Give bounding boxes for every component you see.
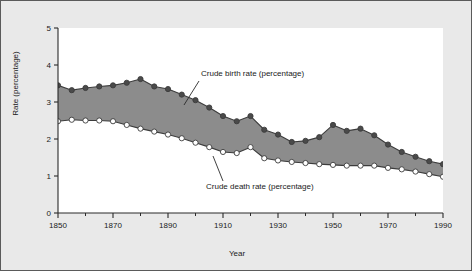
birth-rate-point — [124, 80, 129, 85]
death-rate-point — [317, 162, 322, 167]
birth-rate-point — [165, 86, 170, 91]
birth-rate-point — [427, 159, 432, 164]
death-rate-point — [399, 167, 404, 172]
y-tick-label: 1 — [47, 172, 52, 181]
x-tick-label: 1950 — [324, 221, 342, 230]
death-rate-point — [427, 172, 432, 177]
birth-rate-point — [358, 126, 363, 131]
death-rate-point — [69, 117, 74, 122]
x-tick-label: 1930 — [269, 221, 287, 230]
death-rate-point — [344, 163, 349, 168]
death-rate-point — [138, 126, 143, 131]
x-tick-label: 1970 — [379, 221, 397, 230]
birth-rate-point — [372, 133, 377, 138]
birth-rate-point — [220, 113, 225, 118]
plot-area — [58, 28, 443, 213]
death-rate-point — [275, 158, 280, 163]
birth-rate-point — [330, 122, 335, 127]
death-rate-point — [124, 122, 129, 127]
death-rate-point — [372, 163, 377, 168]
death-rate-point — [179, 136, 184, 141]
death-rate-point — [289, 159, 294, 164]
y-tick-label: 3 — [47, 98, 52, 107]
death-rate-point — [193, 140, 198, 145]
death-rate-point — [358, 163, 363, 168]
birth-rate-point — [317, 135, 322, 140]
birth-rate-point — [385, 142, 390, 147]
birth-rate-point — [275, 132, 280, 137]
birth-rate-point — [69, 88, 74, 93]
birth-rate-point — [440, 162, 443, 167]
birth-rate-point — [344, 128, 349, 133]
birth-rate-point — [138, 76, 143, 81]
x-tick-label: 1870 — [104, 221, 122, 230]
birth-rate-point — [193, 98, 198, 103]
birth-rate-point — [58, 83, 61, 88]
death-rate-point — [262, 156, 267, 161]
death-rate-point — [110, 119, 115, 124]
death-rate-point — [440, 174, 443, 179]
death-rate-point — [165, 132, 170, 137]
birth-rate-point — [110, 83, 115, 88]
birth-rate-point — [303, 138, 308, 143]
death-rate-point — [234, 150, 239, 155]
x-tick-label: 1890 — [159, 221, 177, 230]
birth-rate-point — [248, 113, 253, 118]
birth-rate-point — [234, 119, 239, 124]
x-tick-label: 1850 — [49, 221, 67, 230]
death-rate-point — [385, 165, 390, 170]
death-rate-point — [303, 160, 308, 165]
x-tick-label: 1910 — [214, 221, 232, 230]
y-tick-label: 2 — [47, 135, 52, 144]
death-rate-point — [152, 129, 157, 134]
x-axis-label: Year — [1, 249, 472, 258]
y-tick-label: 4 — [47, 61, 52, 70]
birth-rate-point — [289, 139, 294, 144]
death-rate-point — [330, 162, 335, 167]
birth-rate-point — [207, 105, 212, 110]
chart-canvas — [58, 28, 443, 213]
birth-rate-point — [83, 85, 88, 90]
death-rate-point — [83, 118, 88, 123]
death-rate-point — [97, 118, 102, 123]
birth-rate-point — [179, 92, 184, 97]
death-rate-point — [413, 169, 418, 174]
area-fill — [58, 79, 443, 177]
birth-rate-point — [262, 127, 267, 132]
birth-rate-point — [97, 84, 102, 89]
birth-rate-point — [399, 149, 404, 154]
birth-rate-point — [413, 154, 418, 159]
death-rate-point — [207, 145, 212, 150]
y-tick-label: 5 — [47, 24, 52, 33]
y-axis-label: Rate (percentage) — [11, 24, 20, 144]
birth-rate-point — [152, 84, 157, 89]
death-rate-point — [248, 145, 253, 150]
chart-figure: 01234518501870189019101930195019701990Cr… — [0, 0, 472, 271]
y-tick-label: 0 — [47, 209, 52, 218]
x-tick-label: 1990 — [434, 221, 452, 230]
death-rate-point — [58, 119, 61, 124]
death-rate-point — [220, 149, 225, 154]
